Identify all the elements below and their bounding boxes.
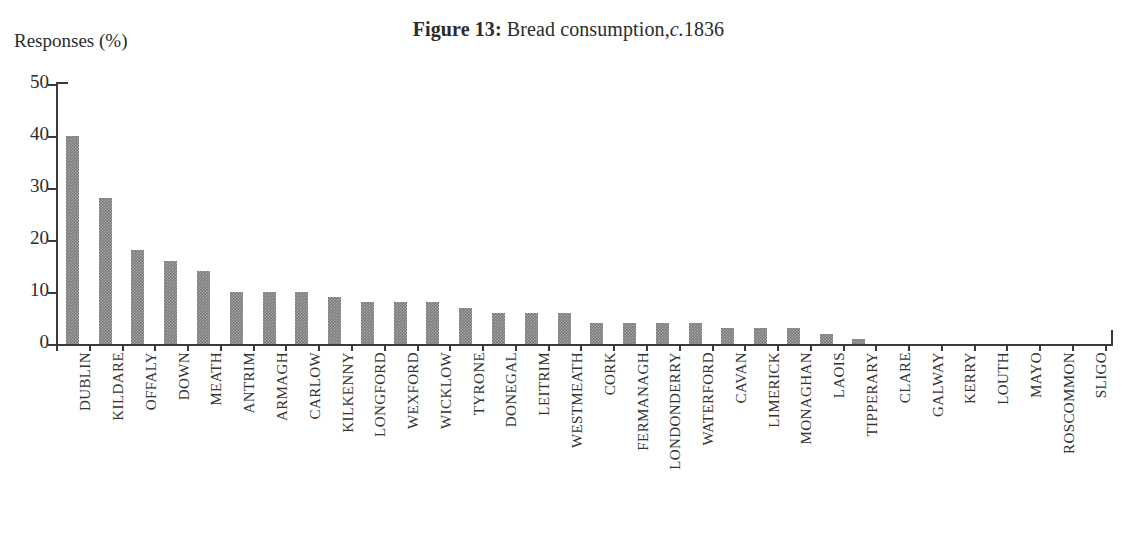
bar (99, 198, 112, 344)
x-axis-label: ROSCOMMON (1062, 352, 1077, 454)
x-tick-mark (1105, 344, 1107, 351)
x-axis-label: WESTMEATH (570, 352, 585, 448)
bar (820, 334, 833, 344)
y-tick-label: 0 (40, 332, 50, 351)
x-axis-label: SLIGO (1094, 352, 1109, 398)
x-tick-mark (351, 344, 353, 351)
bar (361, 302, 374, 344)
x-axis-label: LEITRIM (537, 352, 552, 416)
x-tick-mark (482, 344, 484, 351)
x-axis-label: TIPPERARY (865, 352, 880, 436)
x-tick-mark (417, 344, 419, 351)
y-axis-top-cap (56, 82, 68, 84)
y-tick-mark (48, 240, 56, 242)
x-axis-line (56, 344, 1113, 346)
bar (131, 250, 144, 344)
x-axis-label: CORK (603, 352, 618, 395)
y-axis-title: Responses (%) (14, 30, 127, 52)
bar (492, 313, 505, 344)
bar (426, 302, 439, 344)
y-tick-label: 30 (30, 176, 49, 195)
figure-title: Figure 13: Bread consumption,c.1836 (0, 18, 1137, 41)
y-tick-mark (48, 136, 56, 138)
bar (66, 136, 79, 344)
y-tick-label: 20 (30, 228, 49, 247)
bar (197, 271, 210, 344)
bar (164, 261, 177, 344)
x-tick-mark (875, 344, 877, 351)
y-tick-mark (48, 84, 56, 86)
x-axis-label: CAVAN (734, 352, 749, 403)
bar (787, 328, 800, 344)
figure-number-label: Figure 13: (413, 18, 502, 40)
x-tick-mark (777, 344, 779, 351)
x-tick-mark (89, 344, 91, 351)
x-axis-label: TYRONE (472, 352, 487, 415)
bar (263, 292, 276, 344)
x-tick-mark (384, 344, 386, 351)
bar (328, 297, 341, 344)
x-axis-label: GALWAY (931, 352, 946, 417)
x-tick-mark (122, 344, 124, 351)
y-tick-mark (48, 188, 56, 190)
x-tick-mark (1006, 344, 1008, 351)
y-tick-label: 10 (30, 280, 49, 299)
x-axis-label: DOWN (177, 352, 192, 400)
x-tick-mark (56, 344, 58, 351)
x-tick-mark (1039, 344, 1041, 351)
x-axis-label: LONGFORD (373, 352, 388, 437)
bar (525, 313, 538, 344)
bar (852, 339, 865, 344)
bar (623, 323, 636, 344)
y-tick-label: 40 (30, 124, 49, 143)
bar (230, 292, 243, 344)
x-axis-label: KILDARE (111, 352, 126, 421)
x-axis-label: MONAGHAN (799, 352, 814, 444)
x-axis-label: CLARE (898, 352, 913, 403)
x-axis-label: ANTRIM (242, 352, 257, 414)
bar (295, 292, 308, 344)
scan-artifact-text (0, 508, 1137, 522)
x-axis-label: DUBLIN (78, 352, 93, 411)
x-axis-label: KILKENNY (341, 352, 356, 433)
y-tick-label: 50 (30, 72, 49, 91)
x-axis-label: MAYO (1029, 352, 1044, 398)
x-axis-label: OFFALY (144, 352, 159, 410)
x-tick-mark (154, 344, 156, 351)
figure-caption-text: Bread consumption, (507, 18, 670, 40)
x-axis-label: ARMAGH (275, 352, 290, 421)
x-tick-mark (941, 344, 943, 351)
x-tick-mark (679, 344, 681, 351)
x-axis-label: LONDONDERRY (668, 352, 683, 470)
bar (656, 323, 669, 344)
bar (558, 313, 571, 344)
x-tick-mark (974, 344, 976, 351)
x-axis-label: LOUTH (996, 352, 1011, 405)
bar (721, 328, 734, 344)
chart-plot-area: 01020304050 (56, 82, 1113, 346)
figure-year: 1836 (684, 18, 724, 40)
x-tick-mark (810, 344, 812, 351)
x-axis-label: FERMANAGH (636, 352, 651, 451)
x-axis-label: WICKLOW (439, 352, 454, 429)
x-tick-mark (449, 344, 451, 351)
x-axis-label: LIMERICK (767, 352, 782, 428)
x-tick-mark (908, 344, 910, 351)
bar (754, 328, 767, 344)
x-axis-label: WEXFORD (406, 352, 421, 429)
x-axis-label: LAOIS (832, 352, 847, 398)
y-tick-mark (48, 292, 56, 294)
x-tick-mark (580, 344, 582, 351)
x-tick-mark (548, 344, 550, 351)
x-axis-end-cap (1111, 330, 1113, 346)
x-axis-label: KERRY (963, 352, 978, 404)
x-tick-mark (220, 344, 222, 351)
x-axis-label: WATERFORD (701, 352, 716, 446)
x-tick-mark (1072, 344, 1074, 351)
x-tick-mark (515, 344, 517, 351)
bar (394, 302, 407, 344)
x-axis-label: CARLOW (308, 352, 323, 419)
bar (459, 308, 472, 344)
y-tick-mark (48, 344, 56, 346)
x-tick-mark (285, 344, 287, 351)
